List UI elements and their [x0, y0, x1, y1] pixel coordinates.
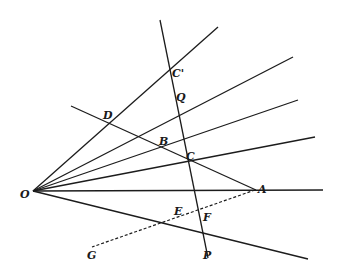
- dashed-line-AG: [92, 190, 255, 247]
- label-e: E: [173, 205, 183, 218]
- label-d: D: [102, 109, 113, 122]
- point-labels: C' Q D B C O A E F G P: [20, 67, 267, 262]
- rays-from-origin: [33, 27, 323, 259]
- ray-4: [33, 137, 315, 191]
- line-DA: [71, 106, 256, 190]
- label-g: G: [87, 249, 96, 262]
- label-o: O: [20, 188, 30, 201]
- label-c: C: [186, 150, 195, 163]
- label-p: P: [202, 249, 212, 262]
- label-a: A: [257, 183, 267, 196]
- ray-2: [33, 57, 293, 191]
- label-f: F: [202, 211, 212, 224]
- label-q: Q: [176, 91, 186, 104]
- ray-5-OA: [33, 190, 323, 191]
- ray-6: [33, 191, 308, 259]
- geometry-diagram: C' Q D B C O A E F G P: [0, 0, 338, 280]
- ray-1: [33, 27, 218, 191]
- label-c-prime: C': [172, 67, 184, 80]
- label-b: B: [158, 135, 168, 148]
